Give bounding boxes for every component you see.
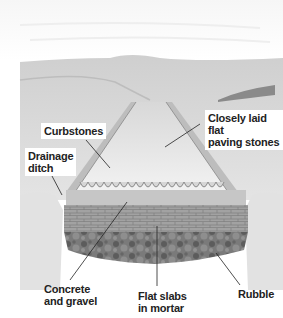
ground-left (20, 193, 63, 291)
flat-slabs-layer (64, 205, 248, 233)
label-concrete-gravel: Concrete and gravel (44, 283, 97, 307)
label-curbstones: Curbstones (41, 123, 106, 139)
label-rubble: Rubble (238, 288, 274, 300)
label-paving-stones: Closely laid flat paving stones (205, 110, 283, 150)
label-flat-slabs: Flat slabs in mortar (138, 290, 187, 314)
concrete-gravel-layer (66, 190, 246, 206)
ground-right (245, 193, 283, 291)
label-drainage-ditch: Drainage ditch (25, 148, 76, 176)
sky (0, 0, 283, 60)
